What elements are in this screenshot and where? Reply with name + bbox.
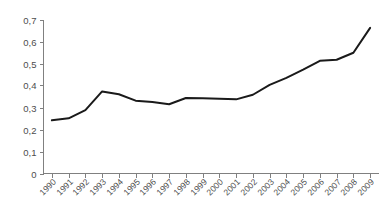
- y-axis-tick-label: 0,4: [23, 80, 36, 91]
- x-axis-tick-label: 2007: [322, 177, 343, 198]
- x-axis-tick-labels: 1990199119921993199419951996199719981999…: [37, 177, 376, 198]
- y-axis-tick-label: 0,2: [23, 125, 36, 136]
- data-series-line: [52, 28, 370, 120]
- x-axis-tick-label: 2005: [288, 177, 309, 198]
- x-axis-tick-label: 1994: [104, 177, 125, 198]
- y-axis-tick-label: 0,1: [23, 147, 36, 158]
- y-axis-tick-label: 0: [31, 169, 36, 180]
- x-axis-tick-label: 1996: [137, 177, 158, 198]
- x-axis-tick-label: 2004: [271, 177, 292, 198]
- y-axis-tick-label: 0,7: [23, 15, 36, 26]
- line-chart-figure: 0,70,60,50,40,30,20,10 19901991199219931…: [0, 0, 390, 214]
- y-axis-tick-marks: [40, 21, 44, 175]
- x-axis-tick-label: 1990: [37, 177, 58, 198]
- x-axis-tick-label: 2006: [305, 177, 326, 198]
- x-axis-tick-label: 2009: [355, 177, 376, 198]
- x-axis-tick-label: 2003: [255, 177, 276, 198]
- x-axis-tick-label: 1992: [70, 177, 91, 198]
- y-axis-tick-labels: 0,70,60,50,40,30,20,10: [23, 15, 36, 180]
- x-axis-tick-label: 1997: [154, 177, 175, 198]
- x-axis-tick-label: 1998: [171, 177, 192, 198]
- x-axis-tick-label: 2000: [204, 177, 225, 198]
- y-axis-tick-label: 0,5: [23, 59, 36, 70]
- x-axis-tick-label: 2008: [338, 177, 359, 198]
- x-axis-tick-label: 2002: [238, 177, 259, 198]
- y-axis-tick-label: 0,3: [23, 103, 36, 114]
- x-axis-tick-label: 1991: [54, 177, 75, 198]
- chart-canvas: 0,70,60,50,40,30,20,10 19901991199219931…: [0, 0, 390, 214]
- x-axis-tick-label: 1993: [87, 177, 108, 198]
- x-axis-tick-label: 1995: [121, 177, 142, 198]
- x-axis-tick-label: 2001: [221, 177, 242, 198]
- y-axis-tick-label: 0,6: [23, 37, 36, 48]
- x-axis-tick-label: 1999: [188, 177, 209, 198]
